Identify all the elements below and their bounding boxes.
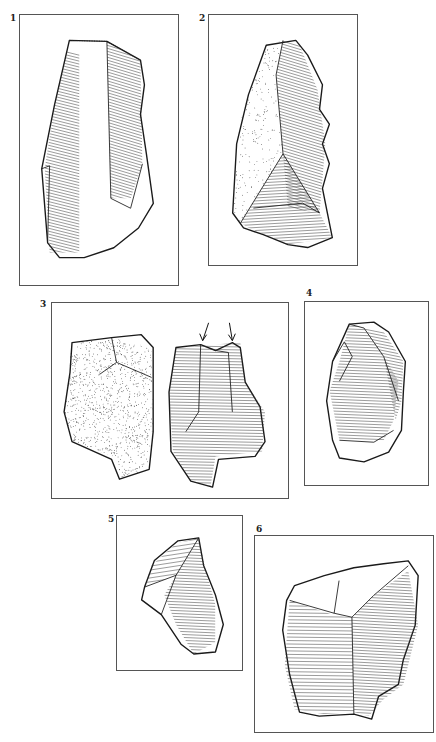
stipple-dot xyxy=(101,475,102,476)
stipple-dot xyxy=(76,461,77,462)
stipple-dot xyxy=(141,474,142,475)
stipple-dot xyxy=(273,161,274,162)
stipple-dot xyxy=(254,48,255,49)
stipple-dot xyxy=(95,463,96,464)
stipple-dot xyxy=(275,101,276,102)
stipple-dot xyxy=(129,426,130,427)
stipple-dot xyxy=(86,418,87,419)
stipple-dot xyxy=(80,448,81,449)
stipple-dot xyxy=(134,396,135,397)
stipple-dot xyxy=(118,391,119,392)
stipple-dot xyxy=(134,431,135,432)
stipple-dot xyxy=(125,346,126,347)
stipple-dot xyxy=(84,440,85,441)
stipple-dot xyxy=(109,450,110,451)
stipple-dot xyxy=(277,151,278,152)
stipple-dot xyxy=(155,443,156,444)
stipple-dot xyxy=(117,393,118,394)
stipple-dot xyxy=(68,351,69,352)
stipple-dot xyxy=(275,40,276,41)
stipple-dot xyxy=(137,472,138,473)
stipple-dot xyxy=(132,351,133,352)
stipple-dot xyxy=(132,352,133,353)
stipple-dot xyxy=(114,416,115,417)
stipple-dot xyxy=(85,395,86,396)
stipple-dot xyxy=(151,454,152,455)
stipple-dot xyxy=(111,411,112,412)
stipple-dot xyxy=(246,210,247,211)
stipple-dot xyxy=(105,409,106,410)
stipple-dot xyxy=(129,400,130,401)
stipple-dot xyxy=(130,446,131,447)
stipple-dot xyxy=(126,453,127,454)
stipple-dot xyxy=(232,59,233,60)
stipple-dot xyxy=(265,118,266,119)
stipple-dot xyxy=(128,470,129,471)
stipple-dot xyxy=(117,402,118,403)
stipple-dot xyxy=(144,451,145,452)
stipple-dot xyxy=(70,357,71,358)
stipple-dot xyxy=(62,361,63,362)
stipple-dot xyxy=(129,345,130,346)
stipple-dot xyxy=(106,447,107,448)
stipple-dot xyxy=(261,40,262,41)
stipple-dot xyxy=(97,388,98,389)
stipple-dot xyxy=(276,114,277,115)
stipple-dot xyxy=(112,414,113,415)
artifact-drawing-5 xyxy=(117,516,242,670)
stipple-dot xyxy=(252,90,253,91)
stipple-dot xyxy=(249,162,250,163)
stipple-dot xyxy=(78,423,79,424)
stipple-dot xyxy=(86,437,87,438)
stipple-dot xyxy=(73,468,74,469)
stipple-dot xyxy=(101,414,102,415)
stipple-dot xyxy=(128,455,129,456)
stipple-dot xyxy=(74,355,75,356)
stipple-dot xyxy=(72,463,73,464)
stipple-dot xyxy=(96,424,97,425)
stipple-dot xyxy=(97,354,98,355)
stipple-dot xyxy=(106,398,107,399)
stipple-dot xyxy=(276,116,277,117)
stipple-dot xyxy=(131,477,132,478)
stipple-dot xyxy=(122,362,123,363)
stipple-dot xyxy=(124,469,125,470)
stipple-dot xyxy=(70,350,71,351)
stipple-dot xyxy=(65,365,66,366)
stipple-dot xyxy=(268,36,269,37)
stipple-dot xyxy=(117,430,118,431)
stipple-dot xyxy=(150,332,151,333)
stipple-dot xyxy=(144,351,145,352)
stipple-dot xyxy=(109,342,110,343)
stipple-dot xyxy=(79,471,80,472)
stipple-dot xyxy=(137,394,138,395)
stipple-dot xyxy=(93,468,94,469)
stipple-dot xyxy=(62,418,63,419)
stipple-dot xyxy=(71,469,72,470)
stipple-dot xyxy=(150,366,151,367)
stipple-dot xyxy=(236,175,237,176)
stipple-dot xyxy=(108,416,109,417)
stipple-dot xyxy=(273,102,274,103)
stipple-dot xyxy=(268,65,269,66)
stipple-dot xyxy=(86,345,87,346)
stipple-dot xyxy=(88,351,89,352)
stipple-dot xyxy=(66,401,67,402)
stipple-dot xyxy=(82,337,83,338)
stipple-dot xyxy=(106,479,107,480)
stipple-dot xyxy=(261,129,262,130)
stipple-dot xyxy=(93,413,94,414)
stipple-dot xyxy=(269,149,270,150)
stipple-dot xyxy=(92,395,93,396)
stipple-dot xyxy=(286,36,287,37)
stipple-dot xyxy=(77,334,78,335)
stipple-dot xyxy=(151,426,152,427)
stipple-dot xyxy=(244,201,245,202)
stipple-dot xyxy=(70,473,71,474)
stipple-dot xyxy=(103,383,104,384)
stipple-dot xyxy=(111,346,112,347)
stipple-dot xyxy=(277,116,278,117)
stipple-dot xyxy=(126,388,127,389)
stipple-dot xyxy=(249,115,250,116)
stipple-dot xyxy=(139,446,140,447)
